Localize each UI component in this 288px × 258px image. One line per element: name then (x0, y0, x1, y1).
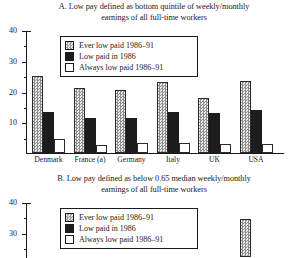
bar-low-paid-1986 (85, 118, 96, 153)
legend-item-always-low-paid: Always low paid 1986–91 (65, 234, 192, 245)
x-axis-label-uk: UK (198, 156, 231, 164)
bar-ever-low-paid (74, 88, 85, 153)
bar-low-paid-1986 (126, 118, 137, 153)
bar-group-usa (240, 219, 251, 258)
legend-item-low-paid-1986: Low paid in 1986 (65, 51, 192, 62)
legend-item-ever-low-paid: Ever low paid 1986–91 (65, 212, 192, 223)
panel-a: A. Low pay defined as bottom quintile of… (0, 0, 288, 172)
bar-low-paid-1986 (43, 112, 54, 154)
panel-b-ytick-30: 30 (22, 234, 26, 235)
panel-a-ytick-label-40: 40 (0, 27, 17, 35)
legend-swatch-hatched-icon (65, 41, 74, 50)
panel-a-ytick-label-20: 20 (0, 89, 17, 97)
bar-group-denmark: Denmark (32, 76, 65, 153)
bar-low-paid-1986 (209, 113, 220, 153)
bar-always-low-paid (220, 144, 231, 153)
bar-always-low-paid (262, 144, 273, 153)
panel-a-ytick-30: 30 (22, 62, 26, 63)
legend-label-low-paid-1986: Low paid in 1986 (79, 52, 136, 61)
panel-a-title-line2: earnings of all full-time workers (26, 13, 282, 24)
bar-ever-low-paid (115, 90, 126, 153)
panel-a-ytick-40: 40 (22, 31, 26, 32)
panel-a-ytick-minor-5 (24, 139, 26, 140)
bar-group-usa: USA (240, 81, 273, 153)
panel-a-ytick-20: 20 (22, 93, 26, 94)
panel-a-ytick-label-30: 30 (0, 58, 17, 66)
panel-a-y-axis (26, 31, 27, 154)
bar-ever-low-paid (240, 219, 251, 258)
panel-b-legend: Ever low paid 1986–91 Low paid in 1986 A… (60, 208, 198, 249)
bar-always-low-paid (137, 143, 148, 153)
panel-b: B. Low pay defined as below 0.65 median … (0, 172, 288, 258)
bar-group-germany: Germany (115, 90, 148, 153)
legend-item-always-low-paid: Always low paid 1986–91 (65, 62, 192, 73)
panel-a-axis-top-cap (26, 31, 31, 32)
x-axis-label-usa: USA (240, 156, 273, 164)
legend-swatch-black-icon (65, 52, 74, 61)
bar-group-uk: UK (198, 98, 231, 153)
panel-a-legend: Ever low paid 1986–91 Low paid in 1986 A… (60, 36, 198, 77)
panel-a-x-axis (26, 153, 284, 154)
bar-always-low-paid (54, 139, 65, 153)
panel-b-ytick-40: 40 (22, 203, 26, 204)
bar-always-low-paid (179, 143, 190, 153)
bar-ever-low-paid (157, 82, 168, 153)
x-axis-label-france-a: France (a) (74, 156, 107, 164)
bar-ever-low-paid (32, 76, 43, 153)
panel-a-ytick-minor-25 (24, 77, 26, 78)
legend-label-ever-low-paid: Ever low paid 1986–91 (79, 213, 154, 222)
legend-label-always-low-paid: Always low paid 1986–91 (79, 235, 163, 244)
panel-b-ytick-minor-35 (24, 218, 26, 219)
legend-item-ever-low-paid: Ever low paid 1986–91 (65, 40, 192, 51)
panel-b-ytick-label-30: 30 (0, 230, 17, 238)
x-axis-label-italy: Italy (157, 156, 190, 164)
panel-a-ytick-10: 10 (22, 123, 26, 124)
panel-a-ytick-label-10: 10 (0, 119, 17, 127)
bar-group-france-a: France (a) (74, 88, 107, 153)
x-axis-label-denmark: Denmark (32, 156, 65, 164)
legend-swatch-hatched-icon (65, 213, 74, 222)
panel-b-title: B. Low pay defined as below 0.65 median … (26, 174, 282, 195)
panel-b-y-axis (26, 203, 27, 258)
legend-swatch-white-icon (65, 63, 74, 72)
legend-label-ever-low-paid: Ever low paid 1986–91 (79, 41, 154, 50)
panel-a-title: A. Low pay defined as bottom quintile of… (26, 2, 282, 23)
x-axis-label-germany: Germany (115, 156, 148, 164)
bar-ever-low-paid (240, 81, 251, 153)
bar-low-paid-1986 (251, 110, 262, 153)
bar-ever-low-paid (198, 98, 209, 153)
panel-b-axis-top-cap (26, 203, 31, 204)
panel-b-plot-area: 40 30 Ever low paid 1986–91 Low paid in … (26, 203, 284, 258)
legend-item-low-paid-1986: Low paid in 1986 (65, 223, 192, 234)
bar-always-low-paid (96, 145, 107, 153)
panel-b-ytick-label-40: 40 (0, 199, 17, 207)
panel-a-ytick-minor-35 (24, 46, 26, 47)
figure-root: A. Low pay defined as bottom quintile of… (0, 0, 288, 258)
legend-label-always-low-paid: Always low paid 1986–91 (79, 63, 163, 72)
panel-b-title-line2: earnings of all full-time workers (26, 185, 282, 196)
legend-swatch-black-icon (65, 224, 74, 233)
panel-a-plot-area: 40 30 20 10 Ever low paid 1986–91 (26, 31, 284, 154)
panel-b-ytick-minor-25 (24, 249, 26, 250)
panel-a-title-line1: A. Low pay defined as bottom quintile of… (59, 2, 250, 11)
legend-swatch-white-icon (65, 235, 74, 244)
bar-group-italy: Italy (157, 82, 190, 153)
panel-a-ytick-minor-15 (24, 108, 26, 109)
panel-b-title-line1: B. Low pay defined as below 0.65 median … (57, 174, 251, 183)
legend-label-low-paid-1986: Low paid in 1986 (79, 224, 136, 233)
bar-low-paid-1986 (168, 112, 179, 154)
